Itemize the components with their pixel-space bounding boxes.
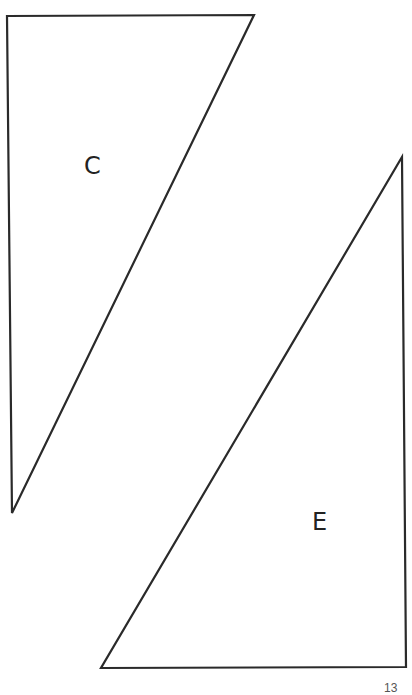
triangle-c-label: C [84,154,101,178]
triangle-c [7,15,254,513]
page-number: 13 [384,682,397,694]
triangle-e-label: E [312,510,327,534]
